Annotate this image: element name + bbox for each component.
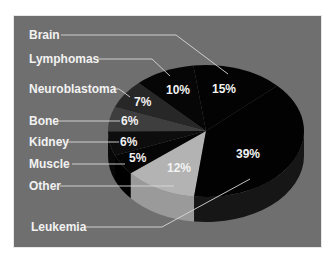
label-lymphomas: Lymphomas (29, 52, 100, 66)
label-leukemia: Leukemia (31, 220, 87, 234)
pie-chart: Brain Lymphomas Neuroblastoma Bone Kidne… (0, 0, 333, 258)
label-kidney: Kidney (29, 135, 69, 149)
pie-top-slices (108, 65, 304, 197)
percent-lymphomas: 10% (166, 83, 190, 97)
label-bone: Bone (29, 114, 59, 128)
percent-other: 12% (167, 161, 191, 175)
percent-leukemia: 39% (236, 147, 260, 161)
label-muscle: Muscle (29, 157, 70, 171)
percent-neuroblastoma: 7% (134, 95, 152, 109)
label-neuroblastoma: Neuroblastoma (29, 82, 117, 96)
label-other: Other (29, 179, 61, 193)
label-brain: Brain (29, 28, 60, 42)
percent-bone: 6% (121, 114, 139, 128)
percent-brain: 15% (212, 82, 236, 96)
percent-kidney: 6% (120, 135, 138, 149)
percent-muscle: 5% (129, 151, 147, 165)
